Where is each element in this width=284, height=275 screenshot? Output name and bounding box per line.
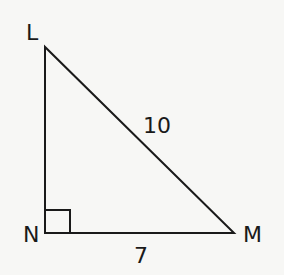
side-label-lm: 10 [143, 115, 171, 137]
triangle-lmn [45, 47, 234, 233]
vertex-label-m: M [243, 224, 262, 246]
vertex-label-l: L [26, 22, 38, 44]
right-angle-marker [45, 210, 70, 233]
vertex-label-n: N [23, 224, 39, 246]
triangle-figure [0, 0, 284, 275]
diagram-canvas: L N M 10 7 [0, 0, 284, 275]
side-label-nm: 7 [134, 245, 148, 267]
